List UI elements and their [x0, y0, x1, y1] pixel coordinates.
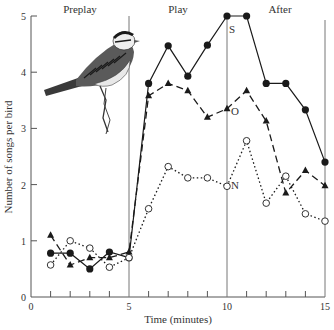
marker-filled-circle	[86, 265, 93, 272]
marker-open-circle	[322, 218, 329, 225]
marker-filled-circle	[165, 42, 172, 49]
marker-open-circle	[165, 163, 172, 170]
marker-open-circle	[47, 262, 54, 269]
marker-filled-circle	[47, 250, 54, 257]
y-axis-label: Number of songs per bird	[2, 100, 14, 214]
x-axis-label: Time (minutes)	[144, 313, 212, 326]
bird-beak	[134, 40, 140, 43]
x-tick-label: 5	[127, 301, 132, 312]
marker-open-circle	[67, 238, 74, 245]
y-tick-label: 1	[21, 236, 26, 247]
marker-open-circle	[243, 137, 250, 144]
bird-twig	[100, 86, 108, 132]
period-label-play: Play	[168, 3, 188, 15]
marker-filled-circle	[302, 106, 309, 113]
marker-filled-circle	[67, 250, 74, 257]
marker-filled-circle	[145, 80, 152, 87]
marker-open-circle	[145, 205, 152, 212]
marker-open-circle	[263, 200, 270, 207]
marker-open-circle	[185, 175, 192, 182]
x-tick-label: 0	[29, 301, 34, 312]
marker-triangle	[47, 231, 54, 238]
marker-open-circle	[87, 245, 94, 252]
marker-open-circle	[302, 211, 309, 218]
data-series: SON	[47, 12, 329, 272]
series-label-s: S	[229, 23, 235, 35]
marker-open-circle	[224, 183, 231, 190]
marker-filled-circle	[184, 73, 191, 80]
marker-filled-circle	[223, 12, 230, 19]
marker-triangle	[282, 189, 289, 196]
y-tick-label: 5	[21, 11, 26, 22]
sparrow-illustration	[44, 31, 140, 134]
series-label-o: O	[231, 105, 239, 117]
period-label-after: After	[268, 3, 292, 15]
marker-triangle	[243, 87, 250, 94]
marker-open-circle	[283, 173, 290, 180]
y-tick-label: 4	[21, 67, 26, 78]
chart-svg: 012345051015 PreplayPlayAfter SON Time (…	[0, 0, 334, 330]
marker-triangle	[184, 87, 191, 94]
marker-filled-circle	[263, 80, 270, 87]
marker-open-circle	[204, 175, 211, 182]
marker-filled-circle	[204, 42, 211, 49]
series-line	[51, 16, 325, 269]
bird-leg	[104, 88, 110, 134]
y-tick-label: 2	[21, 180, 26, 191]
x-tick-label: 10	[222, 301, 232, 312]
marker-triangle	[145, 92, 152, 99]
marker-triangle	[86, 254, 93, 261]
marker-filled-circle	[282, 80, 289, 87]
marker-open-circle	[106, 264, 113, 271]
marker-filled-circle	[321, 159, 328, 166]
y-tick-label: 3	[21, 123, 26, 134]
period-labels: PreplayPlayAfter	[63, 3, 292, 15]
marker-triangle	[302, 167, 309, 174]
song-count-chart: 012345051015 PreplayPlayAfter SON Time (…	[0, 0, 334, 330]
period-label-preplay: Preplay	[63, 3, 97, 15]
marker-filled-circle	[243, 12, 250, 19]
marker-triangle	[322, 182, 329, 189]
x-tick-label: 15	[320, 301, 330, 312]
series-n: N	[47, 137, 328, 270]
series-s: S	[47, 12, 329, 272]
series-label-n: N	[231, 179, 239, 191]
marker-open-circle	[126, 254, 133, 261]
marker-triangle	[165, 79, 172, 86]
y-tick-label: 0	[21, 292, 26, 303]
